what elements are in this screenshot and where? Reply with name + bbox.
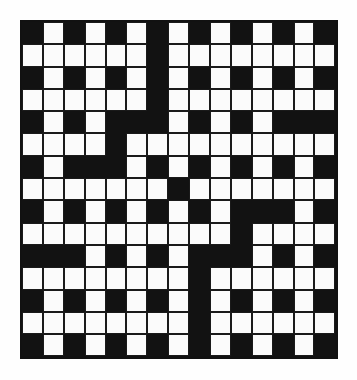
white-cell[interactable] [189, 44, 210, 66]
white-cell[interactable] [210, 156, 231, 178]
white-cell[interactable] [126, 245, 147, 267]
white-cell[interactable] [126, 334, 147, 356]
white-cell[interactable] [168, 245, 189, 267]
white-cell[interactable] [85, 245, 106, 267]
white-cell[interactable] [314, 89, 335, 111]
white-cell[interactable] [294, 156, 315, 178]
white-cell[interactable] [126, 22, 147, 44]
white-cell[interactable] [43, 111, 64, 133]
white-cell[interactable] [294, 223, 315, 245]
white-cell[interactable] [43, 44, 64, 66]
white-cell[interactable] [252, 22, 273, 44]
white-cell[interactable] [189, 223, 210, 245]
white-cell[interactable] [189, 89, 210, 111]
white-cell[interactable] [85, 111, 106, 133]
white-cell[interactable] [294, 133, 315, 155]
white-cell[interactable] [64, 178, 85, 200]
white-cell[interactable] [273, 178, 294, 200]
white-cell[interactable] [43, 200, 64, 222]
white-cell[interactable] [22, 44, 43, 66]
white-cell[interactable] [106, 223, 127, 245]
white-cell[interactable] [85, 334, 106, 356]
white-cell[interactable] [294, 178, 315, 200]
white-cell[interactable] [126, 178, 147, 200]
white-cell[interactable] [252, 178, 273, 200]
white-cell[interactable] [168, 133, 189, 155]
white-cell[interactable] [64, 133, 85, 155]
white-cell[interactable] [294, 22, 315, 44]
white-cell[interactable] [168, 111, 189, 133]
white-cell[interactable] [231, 44, 252, 66]
white-cell[interactable] [252, 156, 273, 178]
white-cell[interactable] [147, 312, 168, 334]
white-cell[interactable] [231, 178, 252, 200]
white-cell[interactable] [252, 267, 273, 289]
white-cell[interactable] [252, 312, 273, 334]
white-cell[interactable] [85, 178, 106, 200]
white-cell[interactable] [168, 156, 189, 178]
white-cell[interactable] [294, 89, 315, 111]
white-cell[interactable] [64, 223, 85, 245]
white-cell[interactable] [106, 267, 127, 289]
white-cell[interactable] [168, 67, 189, 89]
white-cell[interactable] [168, 223, 189, 245]
white-cell[interactable] [231, 133, 252, 155]
white-cell[interactable] [64, 44, 85, 66]
white-cell[interactable] [106, 44, 127, 66]
white-cell[interactable] [210, 133, 231, 155]
white-cell[interactable] [22, 133, 43, 155]
white-cell[interactable] [22, 89, 43, 111]
white-cell[interactable] [85, 200, 106, 222]
white-cell[interactable] [294, 44, 315, 66]
white-cell[interactable] [85, 44, 106, 66]
white-cell[interactable] [85, 89, 106, 111]
white-cell[interactable] [231, 267, 252, 289]
white-cell[interactable] [85, 312, 106, 334]
white-cell[interactable] [273, 133, 294, 155]
white-cell[interactable] [126, 200, 147, 222]
white-cell[interactable] [168, 89, 189, 111]
white-cell[interactable] [43, 89, 64, 111]
white-cell[interactable] [22, 267, 43, 289]
white-cell[interactable] [126, 89, 147, 111]
white-cell[interactable] [168, 44, 189, 66]
white-cell[interactable] [314, 178, 335, 200]
white-cell[interactable] [189, 178, 210, 200]
white-cell[interactable] [210, 89, 231, 111]
white-cell[interactable] [64, 89, 85, 111]
white-cell[interactable] [147, 178, 168, 200]
white-cell[interactable] [168, 267, 189, 289]
white-cell[interactable] [168, 200, 189, 222]
white-cell[interactable] [294, 245, 315, 267]
white-cell[interactable] [252, 44, 273, 66]
white-cell[interactable] [252, 89, 273, 111]
white-cell[interactable] [43, 67, 64, 89]
white-cell[interactable] [273, 89, 294, 111]
white-cell[interactable] [314, 223, 335, 245]
white-cell[interactable] [22, 223, 43, 245]
white-cell[interactable] [314, 44, 335, 66]
white-cell[interactable] [126, 44, 147, 66]
white-cell[interactable] [294, 290, 315, 312]
white-cell[interactable] [252, 245, 273, 267]
white-cell[interactable] [168, 22, 189, 44]
white-cell[interactable] [294, 267, 315, 289]
white-cell[interactable] [147, 223, 168, 245]
white-cell[interactable] [252, 223, 273, 245]
white-cell[interactable] [43, 22, 64, 44]
white-cell[interactable] [85, 133, 106, 155]
white-cell[interactable] [126, 290, 147, 312]
white-cell[interactable] [43, 290, 64, 312]
white-cell[interactable] [85, 267, 106, 289]
white-cell[interactable] [210, 111, 231, 133]
white-cell[interactable] [43, 133, 64, 155]
white-cell[interactable] [168, 312, 189, 334]
white-cell[interactable] [22, 312, 43, 334]
crossword-grid[interactable] [20, 20, 338, 359]
white-cell[interactable] [126, 156, 147, 178]
white-cell[interactable] [147, 133, 168, 155]
white-cell[interactable] [43, 223, 64, 245]
white-cell[interactable] [106, 178, 127, 200]
white-cell[interactable] [147, 267, 168, 289]
white-cell[interactable] [252, 290, 273, 312]
